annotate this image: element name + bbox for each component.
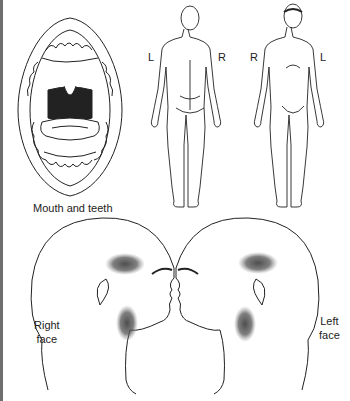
right-jaw-shade — [116, 305, 138, 341]
left-face-head — [176, 218, 319, 394]
body-front-diagram — [254, 4, 323, 207]
body-back-right-label: R — [218, 51, 226, 64]
mouth-caption: Mouth and teeth — [33, 202, 113, 215]
right-face-caption-line2: face — [34, 332, 60, 346]
left-face-caption-line1: Left — [319, 314, 340, 328]
right-face-head — [31, 218, 174, 394]
body-back-left-label: L — [148, 51, 154, 64]
body-front-left-label: L — [320, 51, 326, 64]
body-front-right-label: R — [250, 51, 258, 64]
right-temple-shade — [105, 253, 145, 275]
body-back-diagram — [151, 6, 220, 207]
left-jaw-shade — [234, 306, 256, 342]
left-face-caption: Left face — [319, 314, 340, 342]
left-temple-shade — [238, 252, 278, 274]
left-face-caption-line2: face — [319, 328, 340, 342]
mouth-diagram — [18, 18, 122, 196]
right-face-caption: Right face — [34, 318, 60, 346]
tongue — [41, 118, 100, 140]
right-face-caption-line1: Right — [34, 318, 60, 332]
